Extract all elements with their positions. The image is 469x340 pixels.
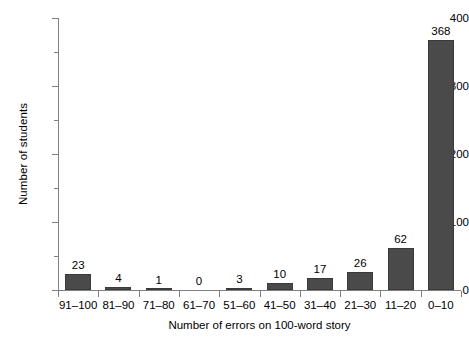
bar-value-label: 0 (196, 275, 202, 287)
x-category-label: 41–50 (260, 299, 300, 312)
bar[interactable] (267, 283, 293, 290)
x-tick (421, 291, 422, 297)
x-tick (260, 291, 261, 297)
x-tick (380, 291, 381, 297)
x-tick (300, 291, 301, 297)
y-axis-title: Number of students (14, 18, 32, 290)
x-tick (58, 291, 59, 297)
x-category-label: 11–20 (380, 299, 420, 312)
x-tick (219, 291, 220, 297)
bar[interactable] (226, 288, 252, 290)
bar[interactable] (307, 278, 333, 290)
x-category-label: 0–10 (421, 299, 461, 312)
bar-slot: 26 (340, 18, 380, 290)
x-category-label: 51–60 (219, 299, 259, 312)
x-tick (179, 291, 180, 297)
bar[interactable] (428, 40, 454, 290)
bar-slot: 10 (260, 18, 300, 290)
bar-slot: 62 (380, 18, 420, 290)
x-category-label: 81–90 (98, 299, 138, 312)
x-axis-title: Number of errors on 100-word story (58, 318, 461, 332)
x-tick (98, 291, 99, 297)
plot-area: 23410310172662368 (58, 18, 461, 290)
bar-value-label: 4 (115, 272, 121, 284)
bar-value-label: 1 (156, 274, 162, 286)
bar[interactable] (65, 274, 91, 290)
x-category-label: 61–70 (179, 299, 219, 312)
bar[interactable] (146, 288, 172, 290)
x-category-label: 91–100 (58, 299, 98, 312)
x-category-label: 71–80 (139, 299, 179, 312)
bar-value-label: 17 (314, 263, 327, 275)
bar-value-label: 10 (273, 268, 286, 280)
bar-slot: 17 (300, 18, 340, 290)
bar-value-label: 23 (72, 259, 85, 271)
bar-value-label: 26 (354, 257, 367, 269)
x-tick (340, 291, 341, 297)
bar-value-label: 3 (236, 273, 242, 285)
bar-slot: 1 (139, 18, 179, 290)
bar-slot: 3 (219, 18, 259, 290)
bar-slot: 368 (421, 18, 461, 290)
x-tick (461, 291, 462, 297)
bar[interactable] (105, 287, 131, 290)
bar-slot: 23 (58, 18, 98, 290)
bar[interactable] (388, 248, 414, 290)
x-category-label: 21–30 (340, 299, 380, 312)
bar-slot: 4 (98, 18, 138, 290)
bar[interactable] (347, 272, 373, 290)
x-tick (139, 291, 140, 297)
bar-slot: 0 (179, 18, 219, 290)
bar-value-label: 368 (431, 25, 450, 37)
bar-value-label: 62 (394, 233, 407, 245)
x-category-label: 31–40 (300, 299, 340, 312)
bar-chart: Number of students 0100200300400 2341031… (0, 0, 469, 340)
